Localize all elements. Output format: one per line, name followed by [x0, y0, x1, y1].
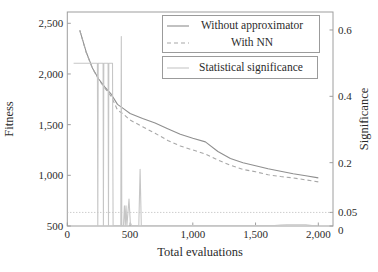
y-right-axis-title: Significance: [357, 87, 371, 150]
y-left-tick-label: 2,000: [39, 68, 64, 80]
legend-box-significance: Statistical significance: [162, 56, 318, 79]
x-tick-label: 1,500: [243, 228, 268, 240]
legend-label-significance: Statistical significance: [193, 60, 317, 75]
light-line-sample-icon: [163, 66, 193, 70]
y-left-tick-label: 2,500: [39, 17, 64, 29]
y-left-tick-label: 500: [47, 220, 64, 232]
y-right-tick-label: 0.4: [338, 90, 352, 102]
solid-line-sample-icon: [163, 24, 193, 28]
y-right-tick-label: 0.05: [338, 206, 358, 218]
with-nn-line: [80, 30, 318, 182]
x-axis-title: Total evaluations: [157, 245, 243, 259]
legend-entry-without-approximator: Without approximator: [163, 17, 319, 34]
legend-box-main: Without approximator With NN: [162, 15, 320, 53]
dashed-line-sample-icon: [163, 41, 193, 45]
x-tick-label: 500: [122, 228, 139, 240]
x-tick-label: 2,000: [306, 228, 331, 240]
y-left-tick-label: 1,000: [39, 169, 64, 181]
y-right-tick-label: 0.2: [338, 157, 352, 169]
y-left-axis-title: Fitness: [2, 101, 16, 137]
legend-entry-with-nn: With NN: [163, 34, 319, 51]
legend-label-without-approximator: Without approximator: [193, 18, 319, 33]
x-tick-label: 0: [65, 228, 71, 240]
legend-entry-significance: Statistical significance: [163, 59, 317, 76]
legend-label-with-nn: With NN: [193, 35, 319, 50]
chart-figure: 05001,0001,5002,0005001,0001,5002,0002,5…: [0, 0, 378, 272]
y-left-tick-label: 1,500: [39, 119, 64, 131]
x-tick-label: 1,000: [180, 228, 205, 240]
y-right-tick-label: 0.6: [338, 24, 352, 36]
y-right-tick-label: 0: [338, 224, 344, 236]
